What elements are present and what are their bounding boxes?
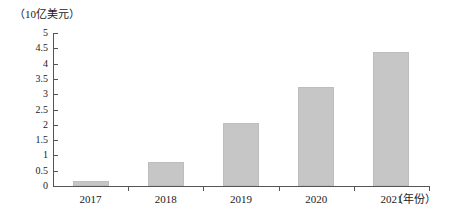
bar <box>298 87 334 186</box>
y-axis-tick-label-text: 3 <box>0 89 48 99</box>
bar <box>373 52 409 186</box>
y-axis-tick-label-text: 1 <box>0 150 48 160</box>
bar <box>223 123 259 186</box>
y-axis-tick-label-text: 1.5 <box>0 135 48 145</box>
y-axis-tick-label-text: 2 <box>0 120 48 130</box>
y-axis-tick-label: 3 <box>0 89 48 99</box>
y-axis-tick-label: 1 <box>0 150 48 160</box>
y-axis-unit-label: （10亿美元） <box>14 8 80 21</box>
x-axis-line <box>53 186 430 187</box>
y-axis-tick-label: 2.5 <box>0 105 48 115</box>
y-axis-tick-label: 4.5 <box>0 43 48 53</box>
y-axis-tick-label: 2 <box>0 120 48 130</box>
bar <box>73 181 109 186</box>
x-axis-category-label: 2018 <box>128 193 203 206</box>
y-axis-tick <box>53 186 58 187</box>
x-axis-unit-label: （年份） <box>392 193 436 206</box>
x-axis-category-label: 2019 <box>203 193 278 206</box>
y-axis-tick-label: 3.5 <box>0 74 48 84</box>
x-axis-tick <box>128 186 129 191</box>
y-axis-tick-label: 5 <box>0 28 48 38</box>
y-axis-tick-label-text: 2.5 <box>0 105 48 115</box>
y-axis-tick-label: 1.5 <box>0 135 48 145</box>
y-axis-tick-label: 4 <box>0 59 48 69</box>
x-axis-tick <box>279 186 280 191</box>
x-axis-category-label: 2017 <box>53 193 128 206</box>
y-axis-tick-label: 0 <box>0 181 48 191</box>
y-axis-tick-label-text: 4 <box>0 59 48 69</box>
x-axis-category-label: 2020 <box>279 193 354 206</box>
x-axis-tick <box>203 186 204 191</box>
plot-area <box>53 33 429 186</box>
y-axis-tick-label-text: 5 <box>0 28 48 38</box>
bar-chart: （10亿美元） 00.511.522.533.544.55 2017201820… <box>0 0 453 224</box>
x-axis-tick <box>429 186 430 191</box>
x-axis-tick <box>354 186 355 191</box>
y-axis-tick-label-text: 4.5 <box>0 43 48 53</box>
y-axis-tick-label-text: 0 <box>0 181 48 191</box>
y-axis-tick-label: 0.5 <box>0 166 48 176</box>
y-axis-tick-label-text: 3.5 <box>0 74 48 84</box>
y-axis-tick-label-text: 0.5 <box>0 166 48 176</box>
bar <box>148 162 184 186</box>
